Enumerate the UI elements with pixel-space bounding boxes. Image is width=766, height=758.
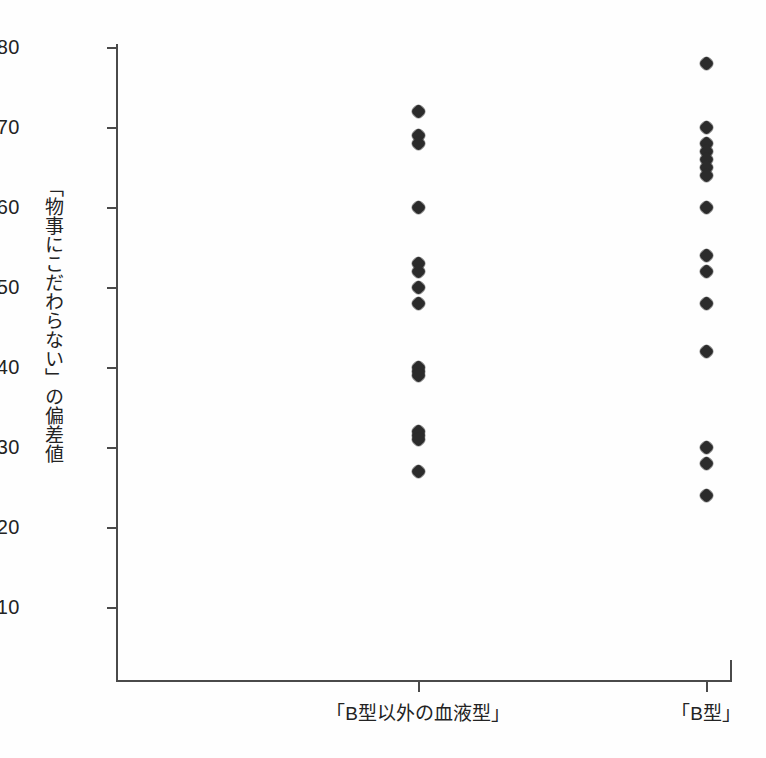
y-axis-tick xyxy=(107,367,116,369)
y-axis-tick-label: 60 xyxy=(0,197,20,217)
y-axis-tick-label: 20 xyxy=(0,517,20,537)
y-axis-tick xyxy=(107,287,116,289)
x-axis-tick xyxy=(706,682,708,692)
y-axis-tick-label: 30 xyxy=(0,437,20,457)
x-axis-tick xyxy=(418,682,420,692)
data-point xyxy=(698,263,714,279)
y-axis-tick-label: 10 xyxy=(0,597,20,617)
data-point xyxy=(410,295,426,311)
data-point xyxy=(698,199,714,215)
data-point xyxy=(410,279,426,295)
data-point xyxy=(410,463,426,479)
y-axis-line xyxy=(116,44,118,682)
data-point xyxy=(698,455,714,471)
plot-area xyxy=(116,44,732,682)
data-point xyxy=(698,343,714,359)
data-point xyxy=(698,295,714,311)
y-axis-tick-label: 50 xyxy=(0,277,20,297)
y-axis-tick xyxy=(107,127,116,129)
data-point xyxy=(410,103,426,119)
data-point xyxy=(698,439,714,455)
data-point xyxy=(698,55,714,71)
y-axis-tick xyxy=(107,47,116,49)
data-point xyxy=(698,247,714,263)
y-axis-tick-label: 70 xyxy=(0,117,20,137)
y-axis-tick xyxy=(107,207,116,209)
y-axis-tick-label: 40 xyxy=(0,357,20,377)
data-point xyxy=(410,199,426,215)
x-axis-right-cap xyxy=(730,660,732,682)
y-axis-tick xyxy=(107,527,116,529)
chart-page: 「物事にこだわらない」の偏差値 8070605040302010 「B型以外の血… xyxy=(0,0,766,758)
y-axis-tick xyxy=(107,607,116,609)
x-axis-line xyxy=(116,680,732,682)
data-point xyxy=(698,119,714,135)
y-axis-tick xyxy=(107,447,116,449)
x-axis-group-label: 「B型以外の血液型」 xyxy=(326,698,510,725)
data-point xyxy=(698,487,714,503)
y-axis-title: 「物事にこだわらない」の偏差値 xyxy=(28,178,62,463)
x-axis-group-label: 「B型」 xyxy=(671,698,741,725)
y-axis-tick-label: 80 xyxy=(0,37,20,57)
